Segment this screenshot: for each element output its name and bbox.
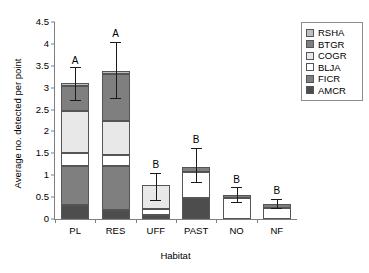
y-tick-label: 1: [44, 170, 55, 180]
error-bar-cap-pl-lower: [70, 100, 81, 101]
y-tick-label: 0.5: [36, 192, 55, 202]
y-tick-label: 2: [44, 127, 55, 137]
bar-segment-pl-ficr: [61, 166, 89, 205]
legend-label-blja: BLJA: [318, 63, 341, 73]
y-tick-label: 0: [44, 214, 55, 224]
plot-area: 00.511.522.533.544.5PLRESUFFPASTNONFAABB…: [54, 22, 297, 220]
x-axis-title: Habitat: [54, 250, 297, 261]
error-bar-line-no: [237, 187, 238, 202]
legend-label-ficr: FICR: [318, 74, 340, 84]
x-tick-label-res: RES: [106, 226, 126, 236]
legend-item-ficr: FICR: [306, 73, 359, 85]
x-tick-mark: [216, 219, 217, 223]
y-tick-label: 4: [44, 39, 55, 49]
bar-pl: [61, 22, 89, 219]
x-tick-label-past: PAST: [184, 226, 208, 236]
x-tick-label-no: NO: [229, 226, 243, 236]
legend-item-rsha: RSHA: [306, 27, 359, 39]
significance-label-pl: A: [72, 56, 79, 66]
error-bar-cap-uff-upper: [150, 173, 161, 174]
x-tick-label-nf: NF: [270, 226, 283, 236]
bar-segment-past-amcr: [182, 198, 210, 219]
y-tick-label: 1.5: [36, 149, 55, 159]
x-tick-label-uff: UFF: [147, 226, 165, 236]
x-tick-mark: [257, 219, 258, 223]
legend-item-amcr: AMCR: [306, 85, 359, 97]
bar-segment-res-amcr: [102, 210, 130, 219]
significance-label-uff: B: [152, 160, 159, 170]
legend-swatch-amcr: [306, 86, 314, 94]
y-tick-label: 3: [44, 83, 55, 93]
bar-segment-pl-amcr: [61, 205, 89, 219]
bar-segment-pl-cogr: [61, 111, 89, 153]
x-tick-mark: [136, 219, 137, 223]
legend-swatch-rsha: [306, 29, 314, 37]
bar-past: [182, 22, 210, 219]
y-tick-label: 4.5: [36, 17, 55, 27]
y-tick-label: 3.5: [36, 61, 55, 71]
x-tick-mark: [95, 219, 96, 223]
error-bar-cap-res-lower: [110, 98, 121, 99]
error-bar-cap-no-upper: [231, 187, 242, 188]
y-axis-title: Average no. detected per point: [12, 24, 23, 224]
legend-swatch-btgr: [306, 40, 314, 48]
x-tick-label-pl: PL: [69, 226, 81, 236]
bar-segment-uff-amcr: [142, 215, 170, 219]
error-bar-cap-nf-lower: [271, 208, 282, 209]
error-bar-cap-no-lower: [231, 202, 242, 203]
legend-label-rsha: RSHA: [318, 28, 344, 38]
legend-label-amcr: AMCR: [318, 86, 346, 96]
legend-item-blja: BLJA: [306, 62, 359, 74]
significance-label-res: A: [112, 29, 119, 39]
legend-label-cogr: COGR: [318, 51, 347, 61]
chart-figure: Average no. detected per point 00.511.52…: [0, 0, 369, 273]
bar-segment-res-blja: [102, 155, 130, 167]
legend-label-btgr: BTGR: [318, 40, 344, 50]
x-tick-mark: [176, 219, 177, 223]
bar-segment-uff-blja: [142, 209, 170, 215]
error-bar-line-res: [116, 42, 117, 98]
bar-segment-res-cogr: [102, 121, 130, 155]
error-bar-cap-uff-lower: [150, 200, 161, 201]
legend-item-btgr: BTGR: [306, 39, 359, 51]
legend-swatch-cogr: [306, 52, 314, 60]
significance-label-past: B: [193, 135, 200, 145]
error-bar-cap-past-upper: [191, 148, 202, 149]
significance-label-nf: B: [273, 186, 280, 196]
error-bar-line-pl: [75, 67, 76, 100]
significance-label-no: B: [233, 175, 240, 185]
error-bar-line-nf: [277, 199, 278, 209]
legend-swatch-ficr: [306, 75, 314, 83]
legend-item-cogr: COGR: [306, 50, 359, 62]
chart-legend: RSHABTGRCOGRBLJAFICRAMCR: [301, 22, 363, 101]
legend-swatch-blja: [306, 63, 314, 71]
y-tick-label: 2.5: [36, 105, 55, 115]
bar-segment-pl-blja: [61, 153, 89, 166]
error-bar-cap-res-upper: [110, 42, 121, 43]
error-bar-line-past: [196, 148, 197, 182]
error-bar-cap-past-lower: [191, 182, 202, 183]
bar-segment-res-ficr: [102, 166, 130, 210]
error-bar-line-uff: [156, 173, 157, 200]
error-bar-cap-pl-upper: [70, 67, 81, 68]
error-bar-cap-nf-upper: [271, 199, 282, 200]
x-tick-mark: [55, 219, 56, 223]
